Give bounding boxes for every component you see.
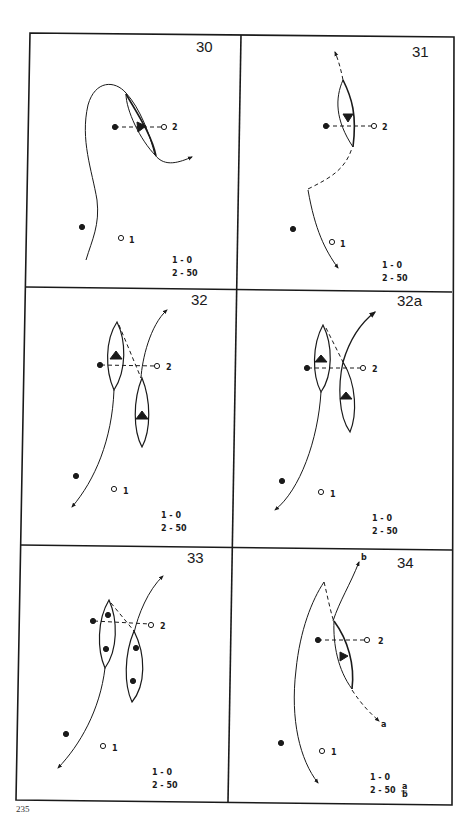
svg-text:1 - 0: 1 - 0 [382,261,402,270]
svg-text:2: 2 [166,363,172,372]
svg-text:b: b [402,790,408,799]
panel-number: 30 [196,38,213,55]
panel-34: 34 a b 2 1 1 - 0 2 - 50 a b [278,553,413,799]
svg-text:1: 1 [112,744,118,753]
svg-text:1 - 0: 1 - 0 [152,768,172,777]
diagram-sheet: 30 2 1 1 - 0 2 - 50 31 2 1 1 - 0 2 - 50 [0,0,470,822]
svg-text:1: 1 [330,490,336,499]
panel-number: 31 [412,43,429,60]
svg-text:1: 1 [129,236,135,245]
panel-number: 33 [187,549,204,566]
svg-text:b: b [361,553,367,562]
panel-number: 34 [397,554,414,571]
svg-text:1 - 0: 1 - 0 [372,514,392,523]
panel-31: 31 2 1 1 - 0 2 - 50 [290,43,428,283]
svg-text:2: 2 [378,637,384,646]
svg-text:1 - 0: 1 - 0 [370,773,390,782]
svg-text:1 - 0: 1 - 0 [172,256,192,265]
svg-text:a: a [381,720,386,729]
svg-text:2: 2 [172,123,178,132]
svg-text:2 - 50: 2 - 50 [172,269,198,278]
panel-32: 32 2 1 1 - 0 2 - 50 [72,291,208,533]
svg-text:2: 2 [382,123,388,132]
panel-number: 32a [397,292,423,309]
panel-30: 30 2 1 1 - 0 2 - 50 [79,38,212,278]
svg-text:2 - 50: 2 - 50 [370,786,396,795]
svg-text:2 - 50: 2 - 50 [161,524,187,533]
panel-32a: 32a 2 1 1 - 0 2 - 50 [275,292,423,536]
panel-number: 32 [191,291,208,308]
svg-text:1: 1 [340,240,346,249]
grid-frame [16,33,454,805]
svg-text:2: 2 [372,365,378,374]
svg-text:1: 1 [331,748,337,757]
svg-text:2: 2 [160,622,166,631]
svg-text:2 - 50: 2 - 50 [152,781,178,790]
svg-text:1 - 0: 1 - 0 [161,511,181,520]
svg-text:1: 1 [123,487,129,496]
svg-text:2 - 50: 2 - 50 [372,527,398,536]
panel-33: 33 2 1 1 - 0 2 - 50 [58,549,204,790]
svg-text:2 - 50: 2 - 50 [382,274,408,283]
page-number: 235 [16,804,30,814]
